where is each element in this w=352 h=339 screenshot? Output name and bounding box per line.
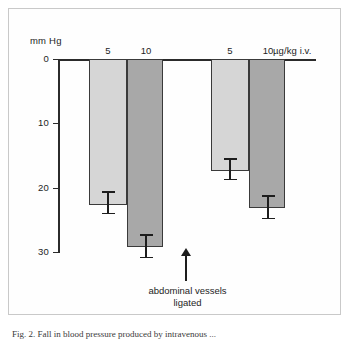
error-stem <box>229 158 230 180</box>
y-axis-line <box>58 59 60 253</box>
y-tick-10 <box>53 123 58 124</box>
error-bar-group1-dose5 <box>101 191 115 214</box>
error-bar-group1-dose10 <box>139 234 153 258</box>
bar-group2-dose5 <box>211 59 249 171</box>
error-cap-bottom <box>102 213 115 215</box>
figure-caption: Fig. 2. Fall in blood pressure produced … <box>12 329 350 339</box>
chart-plot-area: mm Hg 0 10 20 30 5 10 5 10 µg/kg i.v. <box>9 9 342 316</box>
error-stem <box>267 195 268 219</box>
y-tick-30 <box>53 252 58 253</box>
up-arrow-icon <box>185 255 187 281</box>
error-stem <box>107 191 108 214</box>
y-axis-title: mm Hg <box>30 35 62 46</box>
dose-label-group2-bar1: 5 <box>211 45 249 56</box>
bar-group1-dose10 <box>127 59 163 247</box>
figure-frame: mm Hg 0 10 20 30 5 10 5 10 µg/kg i.v. <box>8 8 341 315</box>
error-bar-group2-dose10 <box>261 195 275 219</box>
error-cap-bottom <box>140 257 153 259</box>
bar-group2-dose10 <box>249 59 285 208</box>
annotation-line-2: ligated <box>105 297 270 309</box>
bar-group1-dose5 <box>89 59 127 205</box>
dose-label-group1-bar2: 10 <box>127 45 165 56</box>
y-tick-label-20: 20 <box>23 182 49 193</box>
error-bar-group2-dose5 <box>223 158 237 180</box>
error-cap-bottom <box>262 218 275 220</box>
y-tick-label-0: 0 <box>23 53 49 64</box>
y-tick-20 <box>53 188 58 189</box>
y-tick-label-10: 10 <box>23 117 49 128</box>
error-cap-bottom <box>224 179 237 181</box>
y-tick-label-30: 30 <box>23 246 49 257</box>
y-tick-0 <box>53 59 58 60</box>
x-axis-unit-label: µg/kg i.v. <box>273 45 312 56</box>
error-stem <box>145 234 146 258</box>
annotation-label: abdominal vessels ligated <box>105 285 270 308</box>
dose-label-group1-bar1: 5 <box>89 45 127 56</box>
annotation-line-1: abdominal vessels <box>105 285 270 297</box>
